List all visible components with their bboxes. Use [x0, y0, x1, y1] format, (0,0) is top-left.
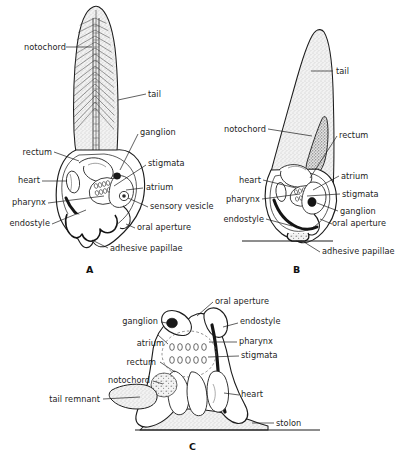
label-a-notochord: notochord: [4, 43, 66, 52]
label-b-rectum: rectum: [339, 131, 368, 140]
label-b-endostyle: endostyle: [208, 215, 264, 224]
label-c-ganglion: ganglion: [106, 317, 158, 326]
panel-c-tail-remnant-structure: [109, 384, 157, 409]
label-b-notochord: notochord: [204, 125, 266, 134]
label-a-stigmata: stigmata: [148, 159, 185, 168]
panel-b-adhesive-papillae: [287, 233, 309, 241]
label-c-oral-aperture: oral aperture: [215, 297, 269, 306]
label-c-endostyle: endostyle: [240, 317, 281, 326]
label-a-oral-aperture: oral aperture: [137, 223, 191, 232]
label-c-pharynx: pharynx: [239, 337, 273, 346]
label-c-stigmata: stigmata: [241, 351, 278, 360]
panel-letter-a: A: [86, 264, 94, 275]
panel-letter-b: B: [293, 264, 301, 275]
label-c-heart: heart: [241, 390, 263, 399]
label-b-adhesive-papillae: adhesive papillae: [322, 247, 395, 256]
label-a-sensory-vesicle: sensory vesicle: [150, 202, 214, 211]
label-b-oral-aperture: oral aperture: [332, 219, 386, 228]
label-b-stigmata: stigmata: [342, 190, 379, 199]
label-c-atrium: atrium: [110, 339, 164, 348]
label-b-pharynx: pharynx: [212, 195, 260, 204]
label-c-rectum: rectum: [104, 358, 156, 367]
label-c-stolon: stolon: [276, 419, 301, 428]
panel-a-ganglion-structure: [113, 173, 120, 179]
panel-b-ganglion-structure: [308, 197, 316, 206]
label-a-atrium: atrium: [146, 183, 173, 192]
label-b-heart: heart: [221, 176, 261, 185]
label-a-heart: heart: [0, 176, 40, 185]
label-c-tail-remnant: tail remnant: [24, 395, 100, 404]
panel-letter-c: C: [189, 441, 196, 452]
label-b-atrium: atrium: [341, 172, 368, 181]
label-c-notochord: notochord: [86, 376, 150, 385]
label-a-adhesive-papillae: adhesive papillae: [110, 244, 183, 253]
label-a-rectum: rectum: [0, 148, 52, 157]
label-a-tail: tail: [148, 90, 161, 99]
label-a-ganglion: ganglion: [140, 128, 176, 137]
panel-c-heart-structure: [207, 371, 229, 412]
label-a-endostyle: endostyle: [0, 219, 50, 228]
label-a-pharynx: pharynx: [0, 198, 46, 207]
panel-c-ganglion-structure: [167, 318, 178, 328]
label-b-tail: tail: [336, 67, 349, 76]
label-b-ganglion: ganglion: [340, 207, 376, 216]
